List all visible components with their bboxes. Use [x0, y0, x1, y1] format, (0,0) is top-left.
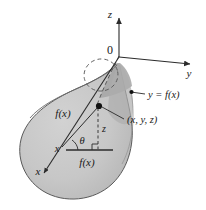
point-label: (x, y, z)	[127, 114, 158, 126]
surface-point-dot	[96, 103, 102, 109]
curve-leader-dot	[129, 90, 133, 94]
solid-of-revolution-figure: z y x 0 y = f(x) (x, y, z) f(x) f(x) z θ…	[0, 0, 206, 210]
base-label: f(x)	[79, 156, 95, 169]
x-distance-label: x	[54, 143, 60, 154]
x-axis-label: x	[35, 165, 41, 177]
height-label: z	[101, 123, 106, 134]
solid-body	[20, 56, 133, 199]
z-axis-label: z	[107, 8, 113, 20]
radius-upper-label: f(x)	[55, 107, 71, 120]
curve-label: y = f(x)	[147, 89, 180, 101]
figure-canvas: z y x 0 y = f(x) (x, y, z) f(x) f(x) z θ…	[0, 0, 206, 210]
y-axis-label: y	[186, 67, 192, 79]
angle-label: θ	[79, 135, 84, 146]
origin-label: 0	[107, 43, 113, 57]
y-axis-line	[119, 57, 190, 64]
